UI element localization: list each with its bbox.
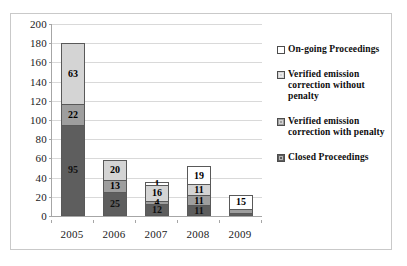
bar-segment-label: 13 [110,181,120,191]
bar-segment[interactable]: 11 [187,184,211,195]
y-axis-tick-label: 180 [11,38,47,48]
legend-item-label: On-going Proceedings [288,44,379,55]
chart-legend: On-going ProceedingsVerified emission co… [277,44,391,177]
bar-segment-label: 11 [194,185,203,195]
y-axis-tick-label: 40 [11,173,47,183]
bar-segment-label: 95 [68,165,78,175]
y-axis-tick-label: 20 [11,192,47,202]
stacked-bar[interactable]: 632295 [61,43,85,216]
bar-column[interactable]: 632295 [52,24,94,216]
legend-item-label: Verified emission correction without pen… [288,69,391,102]
y-axis-tick-label: 60 [11,153,47,163]
bar-segment[interactable]: 63 [61,43,85,103]
y-axis-tick-mark [49,216,52,217]
bar-segment[interactable]: 19 [187,166,211,184]
x-axis-tick-label: 2005 [51,228,93,240]
bar-segment-label: 25 [110,199,120,209]
bar-segment[interactable]: 20 [103,160,127,179]
bar-segment[interactable]: 12 [145,204,169,216]
y-axis-tick-label: 140 [11,77,47,87]
y-axis: 200180160140120100806040200 [11,24,47,216]
stacked-bar[interactable]: 116412 [145,182,169,216]
x-axis-tick-mark [93,220,94,223]
legend-item[interactable]: Closed Proceedings [277,152,391,163]
bar-segment[interactable]: 22 [61,104,85,125]
x-axis-tick-label: 2006 [93,228,135,240]
stacked-bar[interactable]: 15 [229,195,253,216]
legend-swatch-icon [277,46,285,54]
y-axis-tick-label: 200 [11,19,47,29]
y-axis-tick-label: 0 [11,211,47,221]
legend-item[interactable]: Verified emission correction with penalt… [277,116,391,138]
x-axis-tick-mark [135,220,136,223]
x-axis-tick-label: 2009 [219,228,261,240]
bar-segment[interactable]: 13 [103,180,127,192]
x-axis-tick-mark [51,220,52,223]
y-axis-tick-label: 80 [11,134,47,144]
bar-segment[interactable]: 25 [103,192,127,216]
y-axis-tick-label: 160 [11,57,47,67]
bar-segment[interactable]: 95 [61,125,85,216]
bar-column[interactable]: 201325 [94,24,136,216]
bar-segment-label: 22 [68,110,78,120]
bar-segment-label: 19 [194,171,204,181]
legend-item-label: Verified emission correction with penalt… [288,116,391,138]
stacked-bar[interactable]: 19111111 [187,166,211,216]
plot-area: 6322952013251164121911111115 [51,24,262,217]
bar-column[interactable]: 19111111 [178,24,220,216]
legend-swatch-icon [277,154,285,162]
bar-column[interactable]: 15 [220,24,262,216]
bar-segment[interactable]: 11 [187,205,211,216]
plot-wrapper: 200180160140120100806040200 632295201325… [11,14,273,249]
chart-frame: 200180160140120100806040200 632295201325… [10,13,392,250]
bar-column[interactable]: 116412 [136,24,178,216]
x-axis-tick-label: 2007 [135,228,177,240]
x-axis-tick-label: 2008 [177,228,219,240]
x-axis-tick-mark [219,220,220,223]
bar-segment-label: 15 [236,197,246,207]
bar-segment-label: 12 [152,205,162,215]
legend-swatch-icon [277,71,285,79]
bar-segment[interactable] [229,213,253,216]
x-axis-tick-mark [177,220,178,223]
y-axis-tick-label: 100 [11,115,47,125]
bar-segment-label: 63 [68,69,78,79]
legend-item-label: Closed Proceedings [288,152,369,163]
bar-series-group: 6322952013251164121911111115 [52,24,262,216]
bar-segment[interactable]: 15 [229,195,253,209]
legend-item[interactable]: Verified emission correction without pen… [277,69,391,102]
legend-item[interactable]: On-going Proceedings [277,44,391,55]
bar-segment[interactable]: 11 [187,195,211,206]
x-axis-tick-mark [261,220,262,223]
x-axis: 20052006200720082009 [51,220,261,240]
bar-segment-label: 11 [194,206,203,216]
stacked-bar[interactable]: 201325 [103,160,127,216]
bar-segment-label: 20 [110,165,120,175]
legend-swatch-icon [277,118,285,126]
y-axis-tick-label: 120 [11,96,47,106]
